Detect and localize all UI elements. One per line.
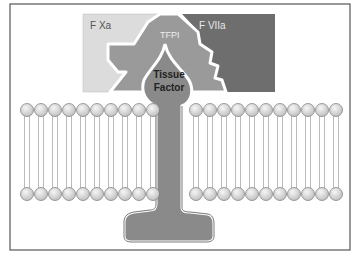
lipid-head xyxy=(316,188,329,201)
diagram-canvas: F Xa F VIIa TFPI Tissue Factor xyxy=(0,0,355,256)
lipid-head xyxy=(260,104,273,117)
lipid-head xyxy=(35,104,48,117)
lipid-head xyxy=(274,188,287,201)
tfpi-diagram: F Xa F VIIa TFPI Tissue Factor xyxy=(0,0,355,256)
lipid-head xyxy=(49,104,62,117)
lipid-head xyxy=(119,104,132,117)
lipid-head xyxy=(105,188,118,201)
lipid-head xyxy=(147,104,160,117)
lipid-head xyxy=(218,188,231,201)
lipid-head xyxy=(77,104,90,117)
lipid-head xyxy=(133,104,146,117)
tissue-factor-label-2: Factor xyxy=(154,82,185,93)
lipid-head xyxy=(316,104,329,117)
lipid-head xyxy=(49,188,62,201)
lipid-head xyxy=(119,188,132,201)
lipid-head xyxy=(133,188,146,201)
lipid-head xyxy=(218,104,231,117)
lipid-head xyxy=(330,104,343,117)
lipid-head xyxy=(288,104,301,117)
lipid-head xyxy=(274,104,287,117)
lipid-head xyxy=(330,188,343,201)
lipid-head xyxy=(232,188,245,201)
lipid-head xyxy=(190,104,203,117)
lipid-head xyxy=(204,188,217,201)
lipid-head xyxy=(260,188,273,201)
fxa-label: F Xa xyxy=(90,20,112,31)
lipid-head xyxy=(232,104,245,117)
lipid-head xyxy=(105,104,118,117)
lipid-head xyxy=(63,188,76,201)
lipid-head xyxy=(91,188,104,201)
fviia-label: F VIIa xyxy=(199,20,226,31)
lipid-head xyxy=(91,104,104,117)
lipid-head xyxy=(246,104,259,117)
lipid-head xyxy=(302,188,315,201)
lipid-head xyxy=(35,188,48,201)
lipid-head xyxy=(246,188,259,201)
tfpi-label: TFPI xyxy=(160,30,180,40)
lipid-head xyxy=(21,188,34,201)
lipid-head xyxy=(21,104,34,117)
tissue-factor-label-1: Tissue xyxy=(153,69,185,80)
lipid-head xyxy=(147,188,160,201)
lipid-head xyxy=(63,104,76,117)
lipid-head xyxy=(204,104,217,117)
lipid-head xyxy=(288,188,301,201)
lipid-head xyxy=(77,188,90,201)
lipid-head xyxy=(302,104,315,117)
lipid-head xyxy=(190,188,203,201)
